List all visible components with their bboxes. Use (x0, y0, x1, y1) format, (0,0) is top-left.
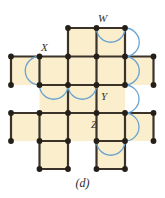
grid-vertex-c1-r1 (37, 54, 43, 60)
cell-c2-r1 (68, 57, 97, 86)
grid-vertex-c2-r2 (65, 82, 71, 88)
arc-right-upper (125, 28, 139, 57)
cell-c3-r1 (97, 57, 126, 86)
grid-vertex-c3-r3 (94, 110, 100, 116)
grid-vertex-c0-r2 (8, 82, 14, 88)
figure-container: WXYZ (d) (0, 0, 165, 198)
grid-vertex-c4-r0 (122, 25, 128, 31)
grid-vertex-c0-r4 (8, 138, 14, 144)
grid-vertex-c1-r5 (37, 166, 43, 172)
vertex-label-w: W (98, 13, 107, 24)
grid-vertex-c2-r3 (65, 110, 71, 116)
grid-vertex-c1-r3 (37, 110, 43, 116)
grid-vertex-c4-r4 (122, 138, 128, 144)
grid-vertex-c5-r2 (151, 82, 157, 88)
vertex-label-z: Z (91, 119, 97, 130)
cell-c3-r3 (97, 113, 126, 141)
grid-diagram (0, 0, 165, 198)
grid-vertex-c2-r0 (65, 25, 71, 31)
grid-vertex-c0-r3 (8, 110, 14, 116)
arc-right-lower (125, 85, 139, 113)
cells-layer (11, 28, 154, 169)
vertex-label-y: Y (101, 91, 107, 102)
figure-caption: (d) (0, 176, 165, 191)
grid-vertex-c3-r4 (94, 138, 100, 144)
cell-c2-r0 (68, 28, 97, 57)
grid-vertex-c2-r4 (65, 138, 71, 144)
grid-vertex-c4-r1 (122, 54, 128, 60)
grid-vertex-c0-r1 (8, 54, 14, 60)
grid-vertex-c3-r1 (94, 54, 100, 60)
grid-vertex-c2-r5 (65, 166, 71, 172)
cell-c0-r3 (11, 113, 40, 141)
cell-c1-r3 (40, 113, 69, 141)
grid-vertex-c4-r5 (122, 166, 128, 172)
grid-vertex-c5-r4 (151, 138, 157, 144)
grid-vertex-c1-r2 (37, 82, 43, 88)
grid-vertex-c5-r3 (151, 110, 157, 116)
grid-vertex-c4-r2 (122, 82, 128, 88)
cell-c1-r4 (40, 141, 69, 169)
grid-vertex-c1-r4 (37, 138, 43, 144)
grid-vertex-c3-r2 (94, 82, 100, 88)
cell-c1-r1 (40, 57, 69, 86)
vertex-label-x: X (41, 42, 48, 53)
grid-vertex-c3-r0 (94, 25, 100, 31)
grid-vertex-c5-r1 (151, 54, 157, 60)
grid-vertex-c4-r3 (122, 110, 128, 116)
grid-vertex-c3-r5 (94, 166, 100, 172)
grid-vertex-c2-r1 (65, 54, 71, 60)
